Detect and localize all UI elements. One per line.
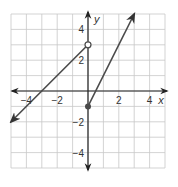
x-tick-label: −2 — [51, 95, 63, 106]
line-segment-1 — [11, 45, 88, 122]
y-tick-label: −2 — [73, 117, 85, 128]
y-tick-label: −4 — [73, 148, 85, 159]
piecewise-graph: −4−22442−2−4xy — [0, 0, 178, 187]
x-tick-label: −4 — [21, 95, 33, 106]
closed-endpoint — [85, 103, 91, 109]
x-tick-label: 4 — [147, 95, 153, 106]
y-axis-label: y — [93, 13, 101, 25]
x-axis-label: x — [157, 94, 164, 106]
axes — [12, 12, 167, 170]
y-tick-label: 4 — [78, 24, 84, 35]
y-tick-label: 2 — [78, 55, 84, 66]
tick-labels: −4−22442−2−4xy — [21, 13, 165, 159]
open-endpoint — [85, 42, 91, 48]
x-tick-label: 2 — [116, 95, 122, 106]
